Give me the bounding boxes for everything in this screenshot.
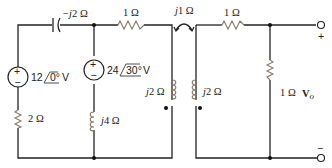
output-plus-sign: + — [318, 30, 324, 42]
resistor-load — [267, 60, 273, 80]
capacitor — [53, 18, 60, 32]
svg-text:12: 12 — [31, 71, 43, 83]
capacitor-label: −j2 Ω — [62, 8, 88, 19]
node-dot — [268, 156, 272, 160]
source-2-label: 24 30° V — [107, 64, 150, 76]
resistor-2ohm-label: 2 Ω — [28, 113, 44, 124]
resistor-load-label: 1 Ω — [280, 87, 296, 98]
svg-text:−: − — [15, 76, 21, 88]
svg-text:−: − — [91, 69, 97, 81]
resistor-top-right-label: 1 Ω — [224, 7, 240, 18]
svg-text:24: 24 — [107, 64, 119, 76]
node-dot — [92, 23, 96, 27]
svg-text:V: V — [143, 64, 150, 76]
coil-primary-label: j2 Ω — [144, 86, 165, 97]
resistor-2ohm — [15, 110, 21, 128]
svg-text:0°: 0° — [50, 71, 60, 83]
svg-text:V: V — [62, 71, 69, 83]
coil-secondary-label: j2 Ω — [201, 86, 222, 97]
resistor-top-left-label: 1 Ω — [123, 7, 139, 18]
mutual-coupling-arrow — [174, 24, 194, 31]
voltage-source-1: + − — [8, 65, 28, 88]
svg-text:30°: 30° — [126, 64, 142, 76]
output-terminal-plus — [318, 22, 325, 29]
resistor-top-left — [118, 21, 144, 29]
source-1-label: 12 0° V — [31, 71, 69, 83]
output-voltage-label: Vo — [302, 88, 315, 101]
node-dot — [92, 156, 96, 160]
output-terminal-minus — [318, 155, 325, 162]
voltage-source-2: + − — [84, 58, 104, 81]
resistor-top-right — [222, 21, 244, 29]
mutual-label: j1 Ω — [173, 5, 194, 16]
inductor-j4 — [90, 112, 94, 131]
inductor-j4-label: j4 Ω — [99, 115, 120, 126]
polarity-dot-secondary — [198, 106, 202, 110]
polarity-dot-primary — [164, 106, 168, 110]
output-minus-sign: − — [317, 142, 323, 154]
wires — [18, 25, 322, 158]
circuit-diagram: −j2 Ω 1 Ω j1 Ω 1 Ω + − Vo + − 12 0° V + … — [0, 0, 332, 168]
node-dot — [268, 23, 272, 27]
